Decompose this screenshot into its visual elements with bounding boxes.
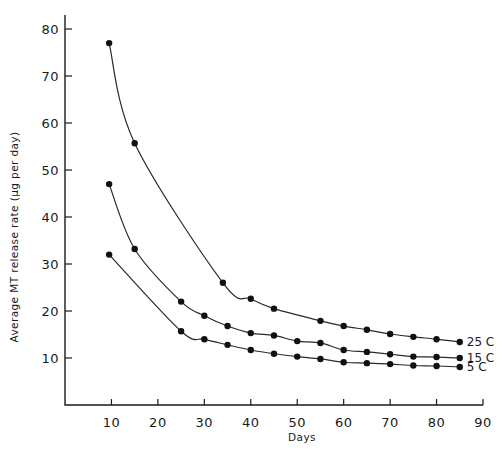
- x-axis-title: Days: [288, 431, 316, 443]
- release-rate-chart: 102030405060708090 1020304050607080 Days…: [0, 0, 504, 453]
- data-point-25c: [317, 318, 323, 324]
- data-point-25c: [131, 140, 137, 146]
- data-point-25c: [220, 280, 226, 286]
- x-axis-ticks: 102030405060708090: [103, 399, 492, 430]
- y-tick-label: 20: [41, 304, 59, 319]
- data-point-5c: [248, 347, 254, 353]
- curve-15c: [109, 184, 460, 358]
- data-point-25c: [433, 336, 439, 342]
- data-point-5c: [317, 356, 323, 362]
- data-point-15c: [340, 347, 346, 353]
- x-tick-label: 20: [149, 415, 167, 430]
- x-tick-label: 90: [474, 415, 492, 430]
- y-tick-label: 40: [41, 210, 59, 225]
- data-point-25c: [248, 296, 254, 302]
- data-point-15c: [131, 246, 137, 252]
- x-tick-label: 50: [288, 415, 306, 430]
- data-point-5c: [224, 342, 230, 348]
- series-group: 25 C15 C5 C: [106, 40, 494, 374]
- data-point-15c: [410, 353, 416, 359]
- curve-5c: [109, 255, 460, 367]
- data-point-15c: [317, 340, 323, 346]
- data-point-25c: [387, 331, 393, 337]
- data-point-5c: [410, 362, 416, 368]
- y-tick-label: 30: [41, 257, 59, 272]
- data-point-5c: [294, 353, 300, 359]
- x-tick-label: 60: [335, 415, 353, 430]
- y-tick-label: 10: [41, 351, 59, 366]
- data-point-15c: [364, 349, 370, 355]
- data-point-15c: [224, 323, 230, 329]
- curve-25c: [109, 43, 460, 342]
- data-point-25c: [364, 327, 370, 333]
- data-point-5c: [387, 361, 393, 367]
- data-point-15c: [106, 181, 112, 187]
- data-point-15c: [433, 354, 439, 360]
- data-point-15c: [248, 330, 254, 336]
- y-tick-label: 70: [41, 69, 59, 84]
- data-point-15c: [178, 298, 184, 304]
- series-25c: 25 C: [106, 40, 494, 349]
- data-point-15c: [457, 355, 463, 361]
- y-tick-label: 60: [41, 116, 59, 131]
- data-point-5c: [433, 363, 439, 369]
- series-5c: 5 C: [106, 251, 487, 374]
- data-point-25c: [410, 334, 416, 340]
- x-tick-label: 10: [103, 415, 121, 430]
- y-axis-ticks: 1020304050607080: [41, 22, 72, 366]
- data-point-5c: [271, 351, 277, 357]
- y-axis-title: Average MT release rate (µg per day): [8, 132, 20, 343]
- x-tick-label: 70: [381, 415, 399, 430]
- data-point-5c: [106, 251, 112, 257]
- data-point-25c: [106, 40, 112, 46]
- data-point-15c: [201, 313, 207, 319]
- data-point-25c: [340, 323, 346, 329]
- x-tick-label: 30: [196, 415, 214, 430]
- series-label-25c: 25 C: [467, 335, 494, 349]
- data-point-5c: [178, 328, 184, 334]
- data-point-5c: [201, 336, 207, 342]
- axis-lines: [65, 15, 483, 405]
- y-tick-label: 80: [41, 22, 59, 37]
- axes: [65, 15, 483, 405]
- data-point-15c: [271, 332, 277, 338]
- x-tick-label: 80: [428, 415, 446, 430]
- data-point-15c: [387, 351, 393, 357]
- data-point-25c: [271, 305, 277, 311]
- data-point-15c: [294, 338, 300, 344]
- data-point-5c: [457, 364, 463, 370]
- x-tick-label: 40: [242, 415, 260, 430]
- y-tick-label: 50: [41, 163, 59, 178]
- series-label-5c: 5 C: [467, 360, 487, 374]
- data-point-5c: [364, 360, 370, 366]
- data-point-5c: [340, 359, 346, 365]
- data-point-25c: [457, 339, 463, 345]
